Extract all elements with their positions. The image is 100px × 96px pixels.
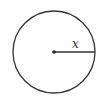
radius-label: x xyxy=(72,37,79,51)
center-point xyxy=(52,50,56,54)
circle-diagram: x xyxy=(0,0,100,96)
